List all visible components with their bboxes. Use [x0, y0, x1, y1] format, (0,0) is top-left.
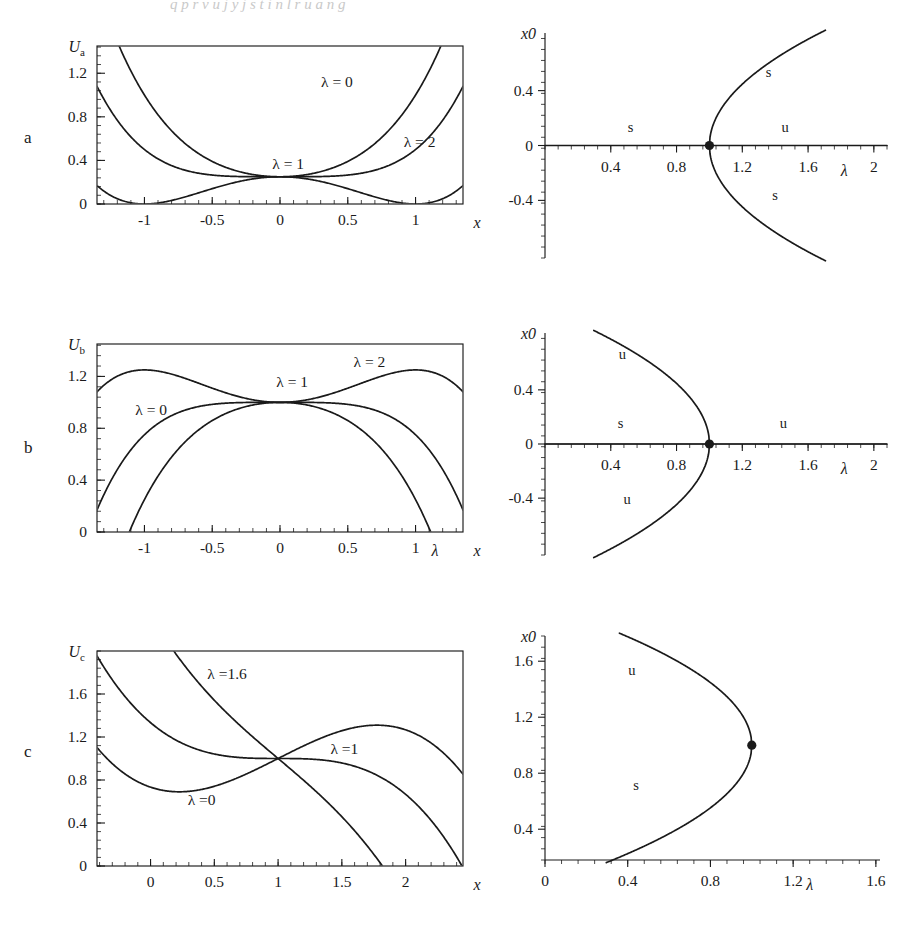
critical-point-marker [747, 741, 756, 750]
branch [606, 745, 751, 862]
x-tick-label: 0 [541, 872, 549, 889]
y-tick-label: 0.8 [514, 764, 534, 781]
x-axis-label: λ [805, 876, 813, 893]
x-tick-label: 0.4 [618, 872, 638, 889]
x-tick-label: 1.6 [866, 872, 886, 889]
y-tick-label: 1.2 [514, 708, 533, 725]
y-tick-label: 0.4 [514, 820, 534, 837]
y-axis-label: x0 [520, 628, 536, 645]
y-tick-label: 1.6 [514, 652, 534, 669]
bifurcation-figure: q p r v u j y j s t i n l r u a n g -1-0… [0, 0, 913, 931]
x-tick-label: 1.2 [783, 872, 802, 889]
branch [619, 633, 751, 745]
stability-label: s [633, 777, 639, 793]
panel-letter-c: c [24, 742, 32, 762]
stability-label: u [628, 662, 635, 678]
x-tick-label: 0.8 [701, 872, 721, 889]
